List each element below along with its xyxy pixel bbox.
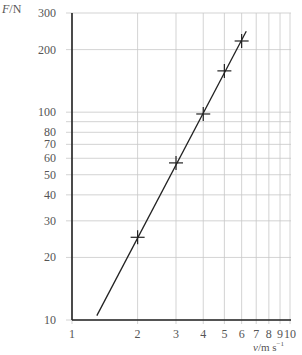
- y-tick-label: 10: [44, 313, 56, 327]
- y-tick-label: 100: [38, 105, 56, 119]
- data-point-cross: [217, 64, 231, 78]
- axes: [72, 13, 291, 320]
- data-series: [97, 31, 249, 315]
- x-tick-label: 10: [284, 327, 296, 341]
- y-tick-label: 20: [44, 250, 56, 264]
- y-tick-label: 70: [44, 137, 56, 151]
- x-tick-label: 2: [135, 327, 141, 341]
- x-tick-label: 6: [239, 327, 245, 341]
- x-tick-label: 1: [69, 327, 75, 341]
- x-axis-title: v/m s−1: [253, 340, 284, 353]
- x-tick-label: 4: [200, 327, 206, 341]
- y-axis-title: F/N: [1, 2, 22, 16]
- x-tick-label: 9: [277, 327, 283, 341]
- y-tick-label: 60: [44, 151, 56, 165]
- best-fit-line: [97, 31, 246, 315]
- tick-labels: 102030405060708010020030012345678910: [38, 6, 296, 341]
- y-tick-label: 40: [44, 188, 56, 202]
- y-tick-label: 300: [38, 6, 56, 20]
- x-tick-label: 3: [173, 327, 179, 341]
- y-tick-label: 50: [44, 168, 56, 182]
- x-tick-label: 7: [253, 327, 259, 341]
- y-tick-label: 30: [44, 214, 56, 228]
- gridlines: [66, 13, 291, 324]
- y-tick-label: 200: [38, 43, 56, 57]
- x-tick-label: 8: [266, 327, 272, 341]
- y-tick-label: 80: [44, 125, 56, 139]
- x-tick-label: 5: [221, 327, 227, 341]
- log-log-chart: 102030405060708010020030012345678910 F/N…: [0, 0, 302, 355]
